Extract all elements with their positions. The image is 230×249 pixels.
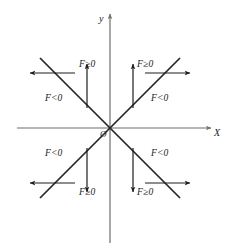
label-right-lower: F<0 xyxy=(151,149,169,159)
label-right-middle: F<0 xyxy=(151,94,169,104)
label-left-lower: F<0 xyxy=(45,149,63,159)
label-bottom-lower-right: F≥0 xyxy=(137,188,153,198)
origin-label: O xyxy=(100,130,107,139)
x-axis-label: X xyxy=(214,128,220,138)
label-top-upper-left: F≥0 xyxy=(79,60,95,70)
label-bottom-lower-left: F≥0 xyxy=(79,188,95,198)
diagram-svg xyxy=(0,0,230,249)
y-axis-label: y xyxy=(99,14,103,24)
label-top-upper-right: F≥0 xyxy=(137,60,153,70)
figure-canvas: y X O F≥0 F≥0 F<0 F<0 F<0 F<0 F≥0 F≥0 xyxy=(0,0,230,249)
label-left-middle: F<0 xyxy=(45,94,63,104)
